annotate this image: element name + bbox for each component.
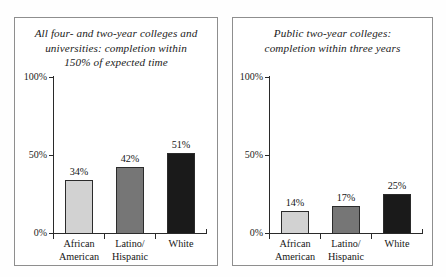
- y-tick-label-100-left: 100%: [13, 71, 47, 82]
- bar-left-latino-hispanic: [116, 167, 144, 234]
- plot-area-right: 100% 50% 0% 14% 17% 25% African American…: [233, 18, 432, 265]
- bar-right-latino-hispanic: [332, 206, 360, 234]
- y-tick-label-0-left: 0%: [13, 227, 47, 238]
- y-tick-50-left: [49, 155, 54, 156]
- y-tick-label-100-right: 100%: [229, 71, 263, 82]
- bar-right-white: [383, 194, 411, 234]
- x-category-label-left-white: White: [151, 238, 211, 251]
- bar-value-right-latino-hispanic: 17%: [326, 192, 366, 203]
- y-tick-label-50-right: 50%: [229, 149, 263, 160]
- chart-panel-left: All four- and two-year colleges and univ…: [14, 17, 218, 266]
- y-tick-label-0-right: 0%: [229, 227, 263, 238]
- figure-two-bar-charts: All four- and two-year colleges and univ…: [0, 0, 446, 277]
- y-tick-100-right: [265, 77, 270, 78]
- plot-area-left: 100% 50% 0% 34% 42% 51% African American…: [15, 18, 217, 265]
- bar-value-left-white: 51%: [161, 139, 201, 150]
- bar-value-right-white: 25%: [377, 180, 417, 191]
- bar-left-african-american: [65, 180, 93, 234]
- bar-value-left-latino-hispanic: 42%: [110, 153, 150, 164]
- bar-value-right-african-american: 14%: [275, 197, 315, 208]
- y-tick-label-50-left: 50%: [13, 149, 47, 160]
- bar-value-left-african-american: 34%: [59, 166, 99, 177]
- bar-left-white: [167, 153, 195, 234]
- x-tick-right-3: [422, 229, 423, 234]
- x-category-label-right-white: White: [367, 238, 427, 251]
- bar-right-african-american: [281, 211, 309, 234]
- chart-panel-right: Public two-year colleges: completion wit…: [232, 17, 433, 266]
- x-tick-left-3: [206, 229, 207, 234]
- y-tick-100-left: [49, 77, 54, 78]
- y-tick-50-right: [265, 155, 270, 156]
